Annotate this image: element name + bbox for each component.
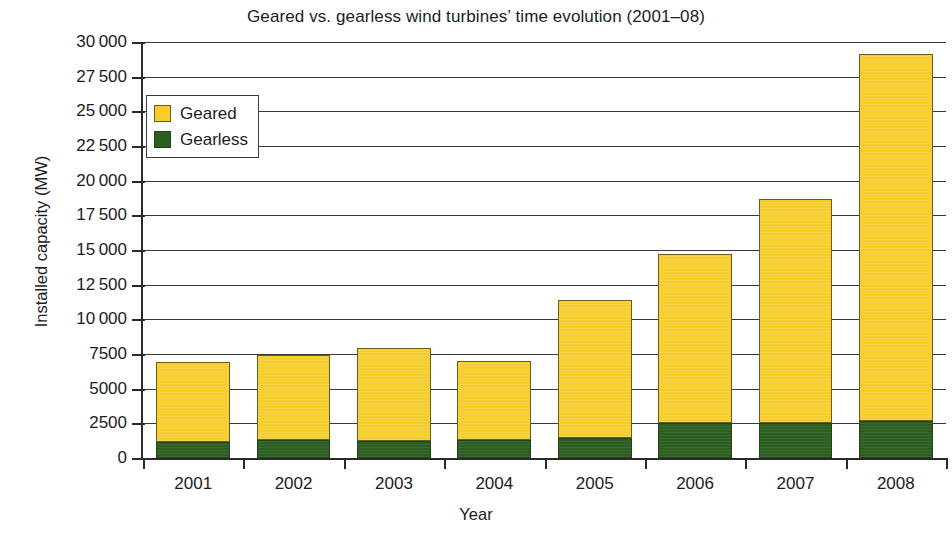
y-axis-tick	[132, 111, 145, 113]
y-axis-tick-label: 27 500	[7, 67, 127, 87]
y-axis-tick-label: 2500	[7, 413, 127, 433]
bar-segment-gearless[interactable]	[759, 423, 833, 458]
bar-segment-geared[interactable]	[257, 355, 331, 440]
y-axis-tick	[132, 423, 145, 425]
x-axis-tick	[143, 458, 145, 469]
bar-segment-geared[interactable]	[558, 300, 632, 438]
x-axis-tick	[846, 458, 848, 469]
y-axis-tick-label: 20 000	[7, 171, 127, 191]
y-axis-tick-label: 15 000	[7, 240, 127, 260]
bar-segment-gearless[interactable]	[357, 441, 431, 458]
bar-segment-gearless[interactable]	[859, 421, 933, 458]
x-axis-tick	[645, 458, 647, 469]
y-axis-tick-label: 7500	[7, 344, 127, 364]
bar-column-2008[interactable]	[859, 42, 933, 458]
bar-segment-gearless[interactable]	[658, 423, 732, 458]
x-axis-tick	[344, 458, 346, 469]
bar-segment-geared[interactable]	[457, 361, 531, 440]
y-axis-tick	[132, 389, 145, 391]
x-axis-tick	[444, 458, 446, 469]
y-axis-tick-label: 22 500	[7, 136, 127, 156]
y-axis-tick-label: 5000	[7, 379, 127, 399]
bar-segment-geared[interactable]	[759, 199, 833, 424]
y-axis-tick-label: 30 000	[7, 32, 127, 52]
y-axis-tick-label: 10 000	[7, 309, 127, 329]
x-axis-tick	[946, 458, 948, 469]
bar-segment-geared[interactable]	[859, 54, 933, 421]
y-axis-tick	[132, 215, 145, 217]
bar-segment-gearless[interactable]	[558, 438, 632, 458]
y-axis-tick-label: 17 500	[7, 205, 127, 225]
chart-title: Geared vs. gearless wind turbines’ time …	[0, 7, 952, 27]
x-axis-title: Year	[0, 505, 952, 524]
bar-column-2005[interactable]	[558, 42, 632, 458]
y-axis-tick	[132, 319, 145, 321]
bar-segment-gearless[interactable]	[257, 440, 331, 458]
y-axis-tick	[132, 181, 145, 183]
y-axis-tick	[132, 77, 145, 79]
legend-item-gearless[interactable]: Gearless	[154, 126, 248, 152]
bar-column-2004[interactable]	[457, 42, 531, 458]
bar-column-2003[interactable]	[357, 42, 431, 458]
gearless-swatch-icon	[154, 131, 171, 148]
bar-segment-geared[interactable]	[156, 362, 230, 442]
bar-column-2002[interactable]	[257, 42, 331, 458]
y-axis-tick-label: 25 000	[7, 101, 127, 121]
bar-segment-geared[interactable]	[658, 254, 732, 423]
legend-item-geared[interactable]: Geared	[154, 100, 248, 126]
y-axis-tick	[132, 42, 145, 44]
y-axis-tick	[132, 146, 145, 148]
chart-legend: Geared Gearless	[146, 95, 259, 158]
bar-segment-gearless[interactable]	[457, 440, 531, 458]
plot-area: 025005000750010 00012 50015 00017 50020 …	[141, 42, 944, 458]
x-axis-tick	[243, 458, 245, 469]
bar-column-2007[interactable]	[759, 42, 833, 458]
bar-segment-gearless[interactable]	[156, 442, 230, 458]
x-axis-tick-label-2008: 2008	[836, 474, 952, 494]
legend-label-geared: Geared	[180, 105, 237, 122]
y-axis-tick	[132, 250, 145, 252]
bar-segment-geared[interactable]	[357, 348, 431, 440]
y-axis-tick	[132, 285, 145, 287]
x-axis-tick	[745, 458, 747, 469]
x-axis-baseline	[135, 458, 946, 460]
geared-swatch-icon	[154, 105, 171, 122]
bar-column-2006[interactable]	[658, 42, 732, 458]
y-axis-tick-label: 0	[7, 448, 127, 468]
y-axis-tick-label: 12 500	[7, 275, 127, 295]
x-axis-tick	[545, 458, 547, 469]
legend-label-gearless: Gearless	[180, 131, 248, 148]
y-axis-tick	[132, 354, 145, 356]
wind-turbine-stacked-bar-chart: Geared vs. gearless wind turbines’ time …	[0, 0, 952, 538]
